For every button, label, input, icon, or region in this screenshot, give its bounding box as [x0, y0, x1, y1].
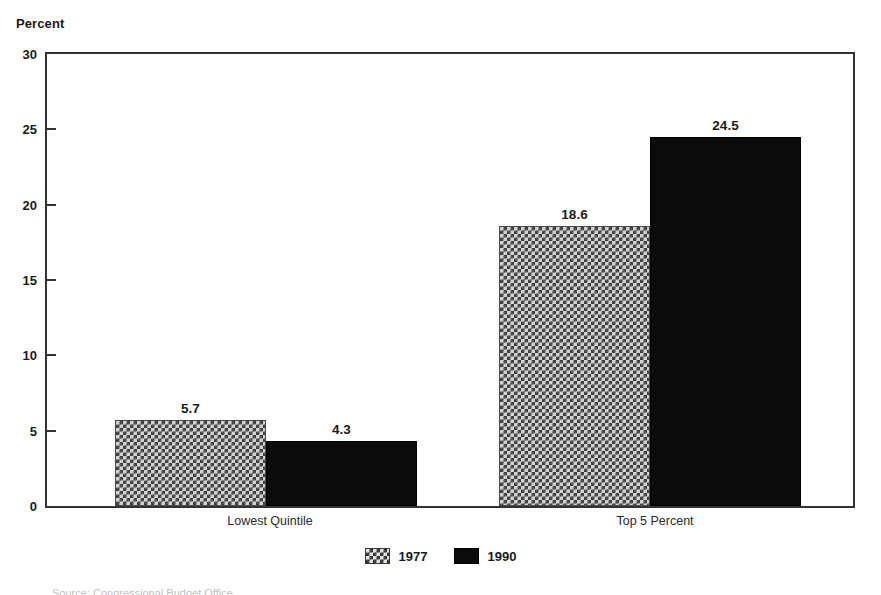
y-tick-label: 25 — [23, 122, 37, 137]
bar-value-label: 18.6 — [561, 207, 587, 222]
bar-1990-top-5-percent[interactable]: 24.5 — [650, 137, 801, 506]
chart-legend: 19771990 — [0, 548, 881, 564]
legend-label: 1977 — [399, 549, 428, 564]
x-axis-label-lowest-quintile: Lowest Quintile — [227, 514, 312, 528]
bar-value-label: 4.3 — [332, 422, 351, 437]
y-tick-mark — [47, 204, 56, 206]
legend-label: 1990 — [488, 549, 517, 564]
legend-swatch-icon — [454, 548, 479, 564]
bar-1977-top-5-percent[interactable]: 18.6 — [499, 226, 650, 506]
chart-plot-area: 0510152025305.74.318.624.5 — [45, 52, 855, 508]
plot-inner: 0510152025305.74.318.624.5 — [47, 54, 853, 506]
x-axis-label-top-5-percent: Top 5 Percent — [616, 514, 693, 528]
y-tick-mark — [47, 430, 56, 432]
y-tick-label: 30 — [23, 47, 37, 62]
y-axis-title: Percent — [16, 16, 64, 31]
y-tick-label: 10 — [23, 348, 37, 363]
y-tick-label: 5 — [30, 423, 37, 438]
legend-swatch-icon — [365, 548, 390, 564]
y-tick-mark — [47, 279, 56, 281]
bar-1977-lowest-quintile[interactable]: 5.7 — [115, 420, 266, 506]
legend-item-1977[interactable]: 1977 — [365, 548, 428, 564]
y-tick-mark — [47, 354, 56, 356]
y-tick-mark — [47, 128, 56, 130]
source-note: Source: Congressional Budget Office — [52, 588, 233, 595]
bar-value-label: 5.7 — [181, 401, 200, 416]
bar-1990-lowest-quintile[interactable]: 4.3 — [266, 441, 417, 506]
y-tick-label: 0 — [30, 499, 37, 514]
y-tick-label: 15 — [23, 273, 37, 288]
legend-item-1990[interactable]: 1990 — [454, 548, 517, 564]
y-tick-label: 20 — [23, 197, 37, 212]
bar-value-label: 24.5 — [712, 118, 738, 133]
